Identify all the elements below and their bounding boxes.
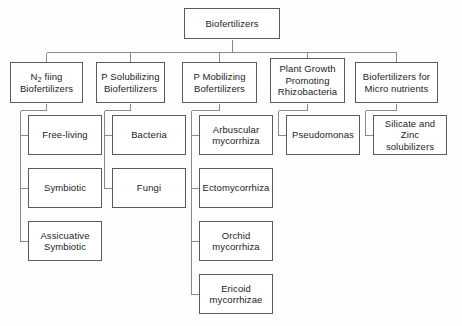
node-label: Silicate and Zinc solubilizers	[376, 118, 444, 153]
node-label: Ericoid mycorrhizae	[202, 283, 270, 306]
node-bacteria: Bacteria	[112, 115, 186, 155]
node-label: Arbuscular mycorrhiza	[202, 124, 270, 147]
node-associative-symbiotic: Assicuative Symbiotic	[28, 221, 102, 261]
node-ericoid-mycorrhizae: Ericoid mycorrhizae	[199, 274, 273, 314]
node-label: Pseudomonas	[289, 129, 357, 141]
node-label: Orchid mycorrhiza	[202, 230, 270, 253]
node-plant-growth-promoting-rhizobacteria: Plant Growth Promoting Rhizobacteria	[270, 58, 345, 103]
node-n2-fixing-biofertilizers: N2 fiingBiofertilizers	[10, 62, 83, 103]
subscript-2: 2	[38, 75, 42, 84]
node-label: Assicuative Symbiotic	[31, 230, 99, 253]
node-label: N2 fiingBiofertilizers	[13, 71, 80, 94]
node-symbiotic: Symbiotic	[28, 168, 102, 208]
node-pseudomonas: Pseudomonas	[286, 115, 360, 155]
node-arbuscular-mycorrhiza: Arbuscular mycorrhiza	[199, 115, 273, 155]
node-biofertilizers-for-micro-nutrients: Biofertilizers for Micro nutrients	[355, 62, 438, 103]
node-silicate-and-zinc-solubilizers: Silicate and Zinc solubilizers	[373, 115, 447, 155]
node-label: Biofertilizers for Micro nutrients	[358, 71, 435, 94]
node-p-solubilizing-biofertilizers: P Solubilizing Biofertilizers	[96, 62, 165, 103]
node-label: Biofertilizers	[187, 18, 277, 30]
node-label: P Mobilizing Bofertilizers	[185, 71, 254, 94]
node-orchid-mycorrhiza: Orchid mycorrhiza	[199, 221, 273, 261]
node-label: Ectomycorrhiza	[202, 182, 270, 194]
node-label: Plant Growth Promoting Rhizobacteria	[273, 63, 342, 98]
node-free-living: Free-living	[28, 115, 102, 155]
node-label: Free-living	[31, 129, 99, 141]
node-fungi: Fungi	[112, 168, 186, 208]
node-biofertilizers-root: Biofertilizers	[184, 8, 280, 39]
biofertilizers-diagram: Biofertilizers N2 fiingBiofertilizers P …	[0, 0, 462, 326]
node-label: P Solubilizing Biofertilizers	[99, 71, 162, 94]
node-label: Bacteria	[115, 129, 183, 141]
node-label: Fungi	[115, 182, 183, 194]
node-ectomycorrhiza: Ectomycorrhiza	[199, 168, 273, 208]
node-p-mobilizing-biofertilizers: P Mobilizing Bofertilizers	[182, 62, 257, 103]
node-label: Symbiotic	[31, 182, 99, 194]
